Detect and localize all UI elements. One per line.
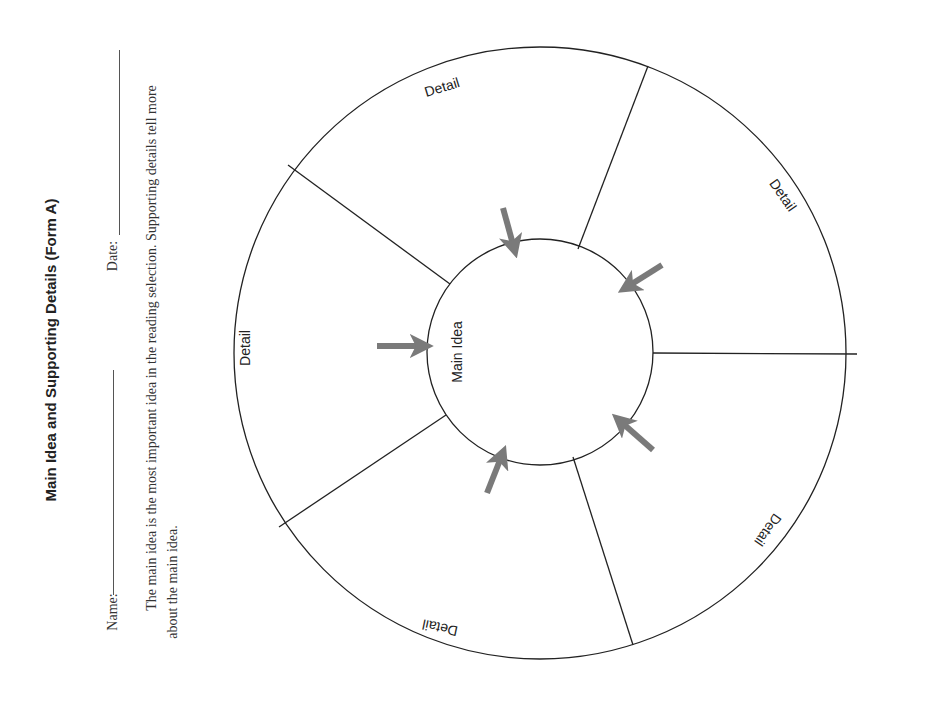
arrow-icon xyxy=(503,208,514,248)
arrow-icon xyxy=(487,455,502,493)
arrow-icon xyxy=(627,265,662,287)
main-idea-label: Main Idea xyxy=(449,321,465,382)
spoke-right xyxy=(653,353,857,354)
spoke-bottom-right xyxy=(573,457,633,645)
arrows xyxy=(377,208,662,493)
detail-label-left: Detail xyxy=(237,330,253,366)
spoke-top-left xyxy=(288,165,450,284)
arrow-icon xyxy=(620,421,653,450)
spoke-top-right xyxy=(578,66,648,249)
spoke-bottom-left xyxy=(279,415,446,527)
